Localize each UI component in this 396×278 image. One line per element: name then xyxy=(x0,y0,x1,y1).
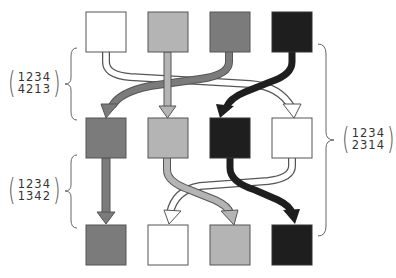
left-paren: ( xyxy=(342,124,349,154)
middle-row xyxy=(86,118,312,158)
square-dark-gray xyxy=(86,118,126,158)
permutation-label-second: ( 1234 1342 ) xyxy=(6,175,63,205)
square-black xyxy=(272,12,312,52)
right-paren: ) xyxy=(53,68,60,98)
square-light-gray xyxy=(210,225,250,265)
square-white xyxy=(148,225,188,265)
permutation-diagram xyxy=(0,0,396,278)
square-white xyxy=(272,118,312,158)
right-paren: ) xyxy=(387,124,394,154)
arrow-darkgray-1-to-1 xyxy=(97,158,115,224)
permutation-label-composite: ( 1234 2314 ) xyxy=(340,124,396,154)
square-light-gray xyxy=(148,118,188,158)
top-row xyxy=(86,12,312,52)
left-brace-second xyxy=(65,155,77,228)
left-brace-first xyxy=(65,48,77,120)
perm-bottom-row: 4213 xyxy=(18,83,51,95)
square-black xyxy=(210,118,250,158)
right-brace-composite xyxy=(318,44,334,236)
square-dark-gray xyxy=(210,12,250,52)
square-dark-gray xyxy=(86,225,126,265)
permutation-label-first: ( 1234 4213 ) xyxy=(6,68,63,98)
square-light-gray xyxy=(148,12,188,52)
square-white xyxy=(86,12,126,52)
left-paren: ( xyxy=(8,175,15,205)
perm-bottom-row: 2314 xyxy=(352,139,385,151)
right-paren: ) xyxy=(53,175,60,205)
left-paren: ( xyxy=(8,68,15,98)
bottom-row xyxy=(86,225,312,265)
square-black xyxy=(272,225,312,265)
perm-bottom-row: 1342 xyxy=(18,190,51,202)
